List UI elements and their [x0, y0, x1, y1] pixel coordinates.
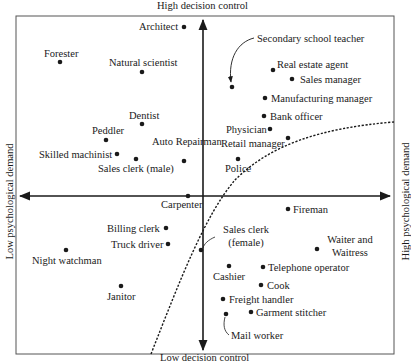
label-waiter-and-waitress: Waiter and Waitress [320, 233, 380, 259]
leader-mail-worker [224, 317, 229, 335]
label-natural-scientist: Natural scientist [109, 57, 178, 68]
axis-title-bottom: Low decision control [160, 352, 249, 363]
data-point [290, 77, 295, 82]
label-fireman: Fireman [293, 204, 328, 215]
leader-sales-clerk-female [203, 237, 215, 248]
label-sales-manager: Sales manager [300, 74, 361, 85]
label-retail-manager: Retail manager [221, 138, 285, 149]
label-architect: Architect [139, 21, 178, 32]
data-point [249, 310, 254, 315]
leader-teacher [230, 38, 254, 82]
data-point [134, 157, 139, 162]
data-point [236, 157, 241, 162]
label-mail-worker: Mail worker [231, 330, 283, 341]
data-point [263, 96, 268, 101]
label-billing-clerk: Billing clerk [107, 223, 160, 234]
data-point [271, 68, 276, 73]
label-manufacturing-manager: Manufacturing manager [271, 93, 372, 104]
data-point [166, 242, 171, 247]
data-point [186, 194, 191, 199]
label-cashier: Cashier [213, 271, 245, 282]
data-point [64, 248, 69, 253]
label-forester: Forester [44, 48, 78, 59]
data-point [58, 60, 63, 65]
data-point [119, 284, 124, 289]
data-point [286, 207, 291, 212]
label-bank-officer: Bank officer [270, 111, 323, 122]
label-garment-stitcher: Garment stitcher [256, 307, 326, 318]
label-carpenter: Carpenter [161, 199, 202, 210]
label-cook: Cook [267, 280, 290, 291]
label-secondary-school-teacher: Secondary school teacher [257, 33, 364, 44]
data-point [261, 265, 266, 270]
label-skilled-machinist: Skilled machinist [39, 149, 112, 160]
label-janitor: Janitor [107, 291, 136, 302]
axis-title-top: High decision control [157, 0, 248, 11]
data-point [230, 85, 235, 90]
label-peddler: Peddler [92, 125, 124, 136]
label-auto-repairman: Auto Repairman [152, 136, 216, 148]
data-point [164, 226, 169, 231]
data-point [259, 283, 264, 288]
label-night-watchman: Night watchman [32, 255, 102, 266]
data-point [182, 25, 187, 30]
label-police: Police [225, 163, 251, 174]
axis-title-right: High psychological demand [400, 132, 411, 272]
data-point [182, 159, 187, 164]
data-point [286, 136, 291, 141]
data-point [140, 122, 145, 127]
label-truck-driver: Truck driver [111, 239, 163, 250]
data-point [221, 297, 226, 302]
label-physician: Physician [226, 124, 267, 135]
data-point [262, 114, 267, 119]
label-freight-handler: Freight handler [229, 294, 293, 305]
data-point [315, 247, 320, 252]
data-point [140, 70, 145, 75]
label-sales-clerk-female: Sales clerk (female) [216, 223, 276, 249]
label-real-estate-agent: Real estate agent [277, 59, 348, 70]
axis-title-left: Low psychological demand [4, 137, 15, 267]
label-dentist: Dentist [129, 110, 159, 121]
data-point [227, 264, 232, 269]
data-point [268, 127, 273, 132]
label-sales-clerk-male: Sales clerk (male) [98, 163, 174, 174]
label-telephone-operator: Telephone operator [268, 262, 349, 273]
data-point [104, 138, 109, 143]
data-point [115, 152, 120, 157]
data-point [224, 312, 229, 317]
data-point [199, 248, 204, 253]
